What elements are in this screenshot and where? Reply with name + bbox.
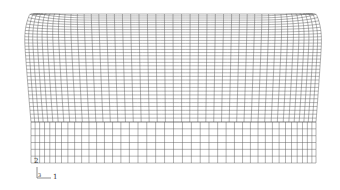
upper-mesh-region [25, 14, 322, 122]
mesh-diagram [0, 0, 340, 190]
triad-label-2: 2 [34, 158, 38, 165]
triad-label-3: 3 [38, 172, 41, 179]
lower-mesh-block [31, 122, 316, 163]
triad-label-1: 1 [53, 174, 57, 181]
